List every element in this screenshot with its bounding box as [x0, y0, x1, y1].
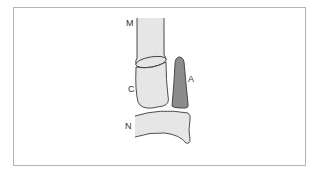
bone-diagram: M C A N [0, 0, 316, 176]
label-m: M [126, 18, 134, 28]
ossicle-a [172, 57, 188, 108]
label-a: A [188, 74, 194, 84]
label-c: C [128, 84, 135, 94]
bone-c [136, 62, 169, 108]
bone-n [135, 111, 190, 143]
label-n: N [125, 121, 132, 131]
